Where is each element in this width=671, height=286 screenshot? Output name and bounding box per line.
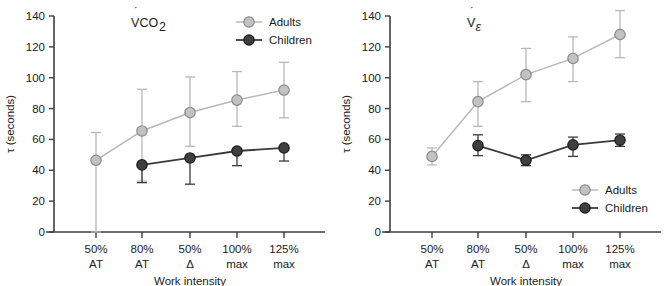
x-tick-label-top: 50% — [178, 243, 201, 255]
x-axis-ticks: 50%AT80%AT50%Δ100%max125%max — [420, 232, 634, 270]
y-tick-label: 120 — [26, 41, 45, 53]
x-tick-label-bottom: Δ — [186, 258, 194, 270]
data-point-marker — [521, 69, 531, 79]
x-tick-label-bottom: AT — [89, 258, 103, 270]
y-tick-label: 100 — [26, 72, 45, 84]
y-axis-ticks: 020406080100120140 — [362, 10, 390, 238]
x-tick-label-bottom: max — [226, 258, 248, 270]
panel-title-subscript: 2 — [159, 20, 166, 34]
data-point-marker — [473, 96, 483, 106]
panel-title-dot: ˙ — [134, 5, 138, 19]
x-axis-title: Work intensity — [490, 275, 562, 286]
series-adults — [91, 62, 289, 232]
x-tick-label-top: 50% — [514, 243, 537, 255]
x-tick-label-top: 125% — [269, 243, 298, 255]
legend-item-adults[interactable]: Adults — [236, 16, 301, 28]
x-tick-label-top: 50% — [420, 243, 443, 255]
panel-title-co: CO — [140, 16, 159, 30]
panel-title: V˙CO2 — [131, 5, 166, 34]
legend-label: Adults — [269, 16, 301, 28]
y-tick-label: 140 — [362, 10, 381, 22]
data-point-marker — [568, 140, 578, 150]
data-point-marker — [91, 155, 101, 165]
data-point-marker — [137, 126, 147, 136]
series-children — [137, 143, 289, 184]
y-tick-label: 0 — [39, 226, 45, 238]
x-tick-label-top: 100% — [558, 243, 587, 255]
legend-label: Adults — [605, 184, 637, 196]
y-tick-label: 20 — [368, 195, 381, 207]
x-tick-label-bottom: AT — [425, 258, 439, 270]
figure-two-panel-tau-chart: 020406080100120140τ (seconds)50%AT80%AT5… — [0, 0, 671, 286]
x-tick-label-top: 125% — [605, 243, 634, 255]
x-axis-title: Work intensity — [154, 275, 226, 286]
legend-label: Children — [269, 34, 312, 46]
x-tick-label-top: 80% — [466, 243, 489, 255]
x-axis-ticks: 50%AT80%AT50%Δ100%max125%max — [84, 232, 298, 270]
series-children — [473, 134, 625, 166]
data-point-marker — [615, 135, 625, 145]
data-point-marker — [279, 143, 289, 153]
data-point-marker — [185, 153, 195, 163]
y-tick-label: 40 — [368, 164, 381, 176]
data-point-marker — [279, 85, 289, 95]
y-axis-title: τ (seconds) — [340, 95, 352, 153]
legend-marker-swatch — [244, 17, 254, 27]
panel-title-subscript: ε — [476, 20, 482, 34]
y-tick-label: 80 — [32, 103, 45, 115]
y-tick-label: 140 — [26, 10, 45, 22]
legend-label: Children — [605, 202, 648, 214]
y-tick-label: 100 — [362, 72, 381, 84]
panel-title: V˙ε — [467, 5, 482, 34]
y-tick-label: 40 — [32, 164, 45, 176]
y-tick-label: 60 — [32, 133, 45, 145]
legend-marker-swatch — [244, 35, 254, 45]
series-line — [142, 148, 284, 165]
error-bar — [91, 132, 101, 232]
legend: AdultsChildren — [572, 184, 648, 214]
x-tick-label-bottom: AT — [135, 258, 149, 270]
y-tick-label: 60 — [368, 133, 381, 145]
y-axis-title: τ (seconds) — [4, 95, 16, 153]
legend-marker-swatch — [580, 185, 590, 195]
data-point-marker — [473, 140, 483, 150]
data-point-marker — [185, 107, 195, 117]
x-tick-label-bottom: Δ — [522, 258, 530, 270]
y-axis-title-text: τ (seconds) — [340, 95, 352, 153]
legend: AdultsChildren — [236, 16, 312, 46]
y-axis-ticks: 020406080100120140 — [26, 10, 54, 238]
panel-vco2: 020406080100120140τ (seconds)50%AT80%AT5… — [0, 0, 336, 286]
x-tick-label-top: 100% — [222, 243, 251, 255]
legend-item-children[interactable]: Children — [236, 34, 312, 46]
data-point-marker — [137, 160, 147, 170]
data-point-marker — [615, 29, 625, 39]
x-tick-label-bottom: max — [562, 258, 584, 270]
axes — [46, 16, 325, 232]
x-tick-label-bottom: max — [609, 258, 631, 270]
data-point-marker — [427, 151, 437, 161]
ve-chart-svg: 020406080100120140τ (seconds)50%AT80%AT5… — [336, 0, 671, 286]
data-point-marker — [232, 95, 242, 105]
data-point-marker — [232, 146, 242, 156]
legend-item-children[interactable]: Children — [572, 202, 648, 214]
legend-marker-swatch — [580, 203, 590, 213]
data-point-marker — [521, 155, 531, 165]
y-axis-title-text: τ (seconds) — [4, 95, 16, 153]
y-tick-label: 80 — [368, 103, 381, 115]
y-tick-label: 20 — [32, 195, 45, 207]
y-tick-label: 0 — [375, 226, 381, 238]
legend-item-adults[interactable]: Adults — [572, 184, 637, 196]
y-tick-label: 120 — [362, 41, 381, 53]
x-tick-label-top: 50% — [84, 243, 107, 255]
x-tick-label-bottom: max — [273, 258, 295, 270]
data-point-marker — [568, 53, 578, 63]
vco2-chart-svg: 020406080100120140τ (seconds)50%AT80%AT5… — [0, 0, 336, 286]
panel-ve: 020406080100120140τ (seconds)50%AT80%AT5… — [336, 0, 671, 286]
series-line — [478, 140, 620, 160]
x-tick-label-top: 80% — [130, 243, 153, 255]
x-tick-label-bottom: AT — [471, 258, 485, 270]
panel-title-dot: ˙ — [470, 5, 474, 19]
